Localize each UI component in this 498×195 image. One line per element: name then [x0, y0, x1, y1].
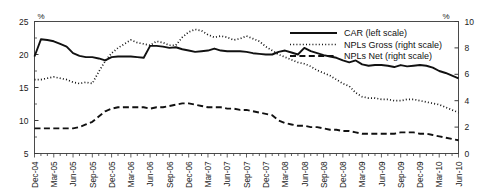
left-axis-tick-label: 15 [19, 83, 29, 93]
x-axis-tick-label: Jun-09 [378, 161, 387, 186]
x-axis-tick-label: Sep-09 [397, 161, 406, 188]
x-axis-tick-label: Dec-08 [339, 161, 348, 188]
x-axis-tick-label: Jun-10 [455, 161, 464, 186]
right-axis-unit: % [442, 12, 449, 21]
x-axis-tick-label: Sep-08 [320, 161, 329, 188]
x-axis-tick-label: Dec-07 [262, 161, 271, 188]
x-axis-tick-label: Sep-06 [166, 161, 175, 188]
x-axis-tick-label: Mar-10 [435, 161, 444, 187]
x-axis-tick-label: Mar-05 [50, 161, 59, 187]
x-axis-tick-label: Jun-05 [69, 161, 78, 186]
x-axis-tick-label: Sep-05 [89, 161, 98, 188]
left-axis-tick-label: 5 [24, 149, 29, 159]
right-axis-tick-label: 10 [465, 17, 475, 27]
right-axis-tick-label: 2 [465, 122, 470, 132]
x-axis-tick-label: Sep-07 [243, 161, 252, 188]
x-axis-tick-label: Jun-06 [146, 161, 155, 186]
x-axis-tick-label: Dec-09 [416, 161, 425, 188]
right-axis-tick-label: 4 [465, 96, 470, 106]
chart-figure: 252015105%1086420%Dec-04Mar-05Jun-05Sep-… [0, 0, 498, 195]
legend-label-2: NPLs Net (right scale) [344, 51, 432, 61]
legend-label-0: CAR (left scale) [344, 28, 407, 38]
chart-svg: 252015105%1086420%Dec-04Mar-05Jun-05Sep-… [0, 0, 498, 195]
x-axis-tick-label: Dec-06 [185, 161, 194, 188]
x-axis-tick-label: Jun-08 [301, 161, 310, 186]
legend-label-1: NPLs Gross (right scale) [344, 40, 442, 50]
x-axis-tick-label: Mar-08 [281, 161, 290, 187]
right-axis-tick-label: 6 [465, 69, 470, 79]
x-axis-tick-label: Dec-05 [108, 161, 117, 188]
left-axis-tick-label: 25 [19, 17, 29, 27]
right-axis-tick-label: 0 [465, 149, 470, 159]
left-axis-unit: % [38, 12, 45, 21]
x-axis-tick-label: Mar-06 [127, 161, 136, 187]
x-axis-tick-label: Jun-07 [223, 161, 232, 186]
x-axis-tick-label: Mar-09 [358, 161, 367, 187]
series-line-2 [35, 103, 459, 140]
right-axis-tick-label: 8 [465, 43, 470, 53]
left-axis-tick-label: 20 [19, 50, 29, 60]
x-axis-tick-label: Dec-04 [31, 161, 40, 188]
x-axis-tick-label: Mar-07 [204, 161, 213, 187]
left-axis-tick-label: 10 [19, 116, 29, 126]
